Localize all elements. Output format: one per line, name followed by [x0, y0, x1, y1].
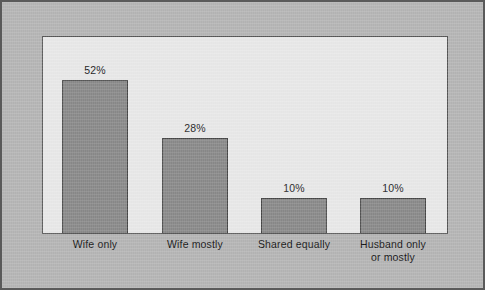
category-label-line: Wife only	[73, 238, 118, 250]
category-label-line: Wife mostly	[167, 238, 223, 250]
plot-area	[42, 36, 448, 234]
category-label-line: Husband only	[360, 238, 426, 250]
category-label-line: Shared equally	[258, 238, 330, 250]
category-axis: Wife only Wife mostly Shared equally Hus…	[42, 238, 448, 286]
category-label-husband-only-or-mostly: Husband only or mostly	[333, 238, 453, 264]
chart-figure: 52% 28% 10% 10% Wife only Wife mostly Sh…	[0, 0, 485, 290]
category-label-line: or mostly	[333, 251, 453, 264]
